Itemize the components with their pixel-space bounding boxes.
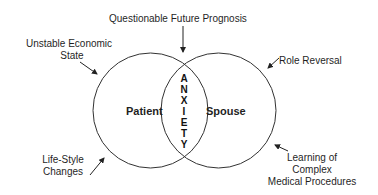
arrow-economic (80, 62, 97, 74)
economic-factor-label: Unstable Economic State (20, 38, 118, 62)
anxiety-letter: E (178, 117, 190, 128)
anxiety-letter: Y (178, 139, 190, 150)
lifestyle-line2: Changes (36, 166, 90, 178)
learning-line2: Complex (262, 164, 362, 176)
anxiety-letter: N (178, 84, 190, 95)
learning-line3: Medical Procedures (262, 176, 362, 188)
anxiety-label: A N X I E T Y (178, 73, 190, 150)
anxiety-letter: T (178, 128, 190, 139)
venn-diagram: Questionable Future Prognosis Unstable E… (0, 0, 378, 195)
learning-factor-label: Learning of Complex Medical Procedures (262, 152, 362, 188)
arrow-lifestyle (90, 158, 104, 175)
anxiety-letter: A (178, 73, 190, 84)
spouse-label: Spouse (206, 105, 246, 117)
role-reversal-label: Role Reversal (279, 55, 342, 67)
anxiety-letter: X (178, 95, 190, 106)
economic-line1: Unstable Economic (20, 38, 118, 50)
patient-label: Patient (126, 105, 163, 117)
lifestyle-line1: Life-Style (36, 154, 90, 166)
economic-line2: State (20, 50, 118, 62)
arrow-learning (275, 145, 288, 151)
prognosis-label: Questionable Future Prognosis (109, 13, 247, 25)
arrow-role-reversal (268, 58, 279, 68)
lifestyle-factor-label: Life-Style Changes (36, 154, 90, 178)
anxiety-letter: I (178, 106, 190, 117)
learning-line1: Learning of (262, 152, 362, 164)
